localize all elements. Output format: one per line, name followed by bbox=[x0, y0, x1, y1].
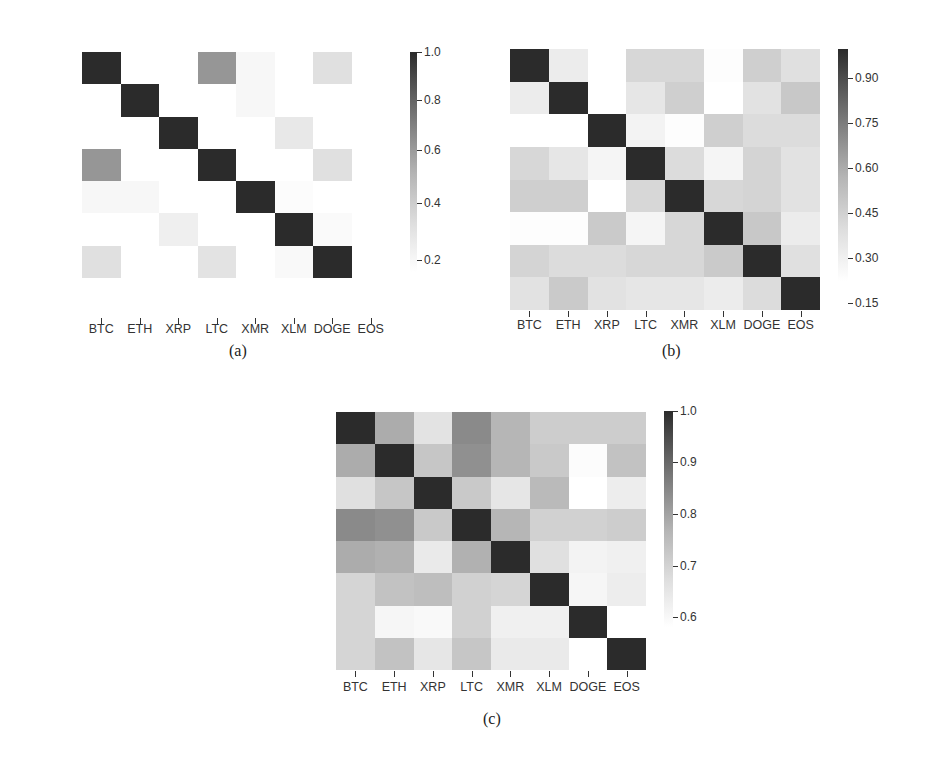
cell-xlm-xrp bbox=[588, 212, 627, 245]
cell-eos-ltc bbox=[452, 638, 491, 670]
cell-btc-btc bbox=[510, 49, 549, 82]
tick-mark bbox=[848, 78, 853, 79]
colorbar-tick-label: 0.15 bbox=[855, 296, 878, 310]
cell-ltc-eos bbox=[781, 147, 820, 180]
cell-xmr-xlm bbox=[530, 541, 569, 573]
cell-eos-eth bbox=[121, 278, 160, 310]
cell-btc-doge bbox=[313, 52, 352, 84]
cell-xrp-xlm bbox=[530, 477, 569, 509]
cell-xmr-doge bbox=[313, 181, 352, 213]
cell-ltc-doge bbox=[313, 149, 352, 181]
cell-doge-eos bbox=[781, 245, 820, 278]
cell-doge-xlm bbox=[704, 245, 743, 278]
cell-xlm-eos bbox=[781, 212, 820, 245]
cell-eos-doge bbox=[743, 277, 782, 310]
cell-xmr-eos bbox=[352, 181, 391, 213]
colorbar-tick-0-4: 0.4 bbox=[417, 196, 441, 210]
cell-doge-xlm bbox=[530, 606, 569, 638]
cell-btc-eos bbox=[607, 412, 646, 444]
column-tick-xrp bbox=[433, 671, 434, 677]
cell-eth-ltc bbox=[452, 444, 491, 476]
cell-xlm-doge bbox=[743, 212, 782, 245]
cell-eos-xrp bbox=[414, 638, 453, 670]
cell-xmr-eth bbox=[375, 541, 414, 573]
cell-ltc-xrp bbox=[588, 147, 627, 180]
heatmap-grid-a bbox=[82, 52, 390, 310]
colorbar-tick-label: 0.6 bbox=[424, 143, 441, 157]
cell-btc-xmr bbox=[665, 49, 704, 82]
tick-mark bbox=[417, 52, 422, 53]
tick-mark bbox=[848, 303, 853, 304]
cell-eos-btc bbox=[336, 638, 375, 670]
cell-xlm-btc bbox=[336, 573, 375, 605]
column-tick-eos bbox=[801, 311, 802, 317]
cell-xlm-ltc bbox=[198, 213, 237, 245]
column-tick-ltc bbox=[472, 671, 473, 677]
cell-xmr-xlm bbox=[275, 181, 314, 213]
tick-mark bbox=[673, 411, 678, 412]
cell-ltc-ltc bbox=[626, 147, 665, 180]
cell-eth-xmr bbox=[491, 444, 530, 476]
column-tick-xrp bbox=[607, 311, 608, 317]
cell-eos-xlm bbox=[704, 277, 743, 310]
column-tick-doge bbox=[762, 311, 763, 317]
cell-xrp-btc bbox=[510, 114, 549, 147]
cell-ltc-xrp bbox=[414, 509, 453, 541]
cell-doge-doge bbox=[569, 606, 608, 638]
cell-eos-xmr bbox=[665, 277, 704, 310]
colorbar-tick-0-6: 0.6 bbox=[673, 610, 697, 624]
cell-xrp-eth bbox=[549, 114, 588, 147]
cell-eth-eth bbox=[121, 84, 160, 116]
cell-xmr-ltc bbox=[626, 180, 665, 213]
cell-eos-eth bbox=[375, 638, 414, 670]
cell-btc-xmr bbox=[236, 52, 275, 84]
cell-xrp-xrp bbox=[588, 114, 627, 147]
cell-doge-ltc bbox=[198, 246, 237, 278]
cell-xmr-btc bbox=[510, 180, 549, 213]
cell-xrp-xmr bbox=[491, 477, 530, 509]
cell-eth-xlm bbox=[530, 444, 569, 476]
cell-xlm-xlm bbox=[704, 212, 743, 245]
colorbar-tick-0-75: 0.75 bbox=[848, 116, 878, 130]
cell-eth-doge bbox=[743, 82, 782, 115]
cell-eth-doge bbox=[569, 444, 608, 476]
cell-eth-ltc bbox=[198, 84, 237, 116]
colorbar-tick-1-0: 1.0 bbox=[417, 45, 441, 59]
cell-ltc-btc bbox=[82, 149, 121, 181]
cell-ltc-xlm bbox=[275, 149, 314, 181]
column-label-eos: EOS bbox=[776, 318, 826, 332]
cell-xrp-doge bbox=[743, 114, 782, 147]
cell-xlm-ltc bbox=[452, 573, 491, 605]
cell-xlm-eos bbox=[607, 573, 646, 605]
cell-doge-btc bbox=[510, 245, 549, 278]
cell-xlm-eth bbox=[121, 213, 160, 245]
cell-xmr-doge bbox=[743, 180, 782, 213]
caption-b: (b) bbox=[662, 342, 681, 360]
cell-xlm-eth bbox=[375, 573, 414, 605]
cell-xmr-xrp bbox=[159, 181, 198, 213]
column-tick-btc bbox=[355, 671, 356, 677]
cell-ltc-ltc bbox=[452, 509, 491, 541]
column-label-eos: EOS bbox=[602, 680, 652, 694]
cell-ltc-eth bbox=[121, 149, 160, 181]
colorbar-tick-label: 0.75 bbox=[855, 116, 878, 130]
cell-xrp-xlm bbox=[704, 114, 743, 147]
cell-xmr-doge bbox=[569, 541, 608, 573]
cell-doge-eth bbox=[121, 246, 160, 278]
cell-xlm-eos bbox=[352, 213, 391, 245]
cell-xrp-xmr bbox=[236, 117, 275, 149]
colorbar-tick-label: 0.60 bbox=[855, 161, 878, 175]
colorbar-c bbox=[664, 411, 673, 627]
cell-doge-btc bbox=[82, 246, 121, 278]
cell-xmr-eth bbox=[549, 180, 588, 213]
cell-xrp-xrp bbox=[414, 477, 453, 509]
cell-btc-ltc bbox=[626, 49, 665, 82]
cell-xrp-ltc bbox=[198, 117, 237, 149]
column-tick-xlm bbox=[549, 671, 550, 677]
cell-xlm-doge bbox=[313, 213, 352, 245]
cell-xlm-xmr bbox=[491, 573, 530, 605]
cell-btc-xlm bbox=[275, 52, 314, 84]
cell-btc-btc bbox=[82, 52, 121, 84]
colorbar-tick-0-90: 0.90 bbox=[848, 71, 878, 85]
cell-doge-xlm bbox=[275, 246, 314, 278]
